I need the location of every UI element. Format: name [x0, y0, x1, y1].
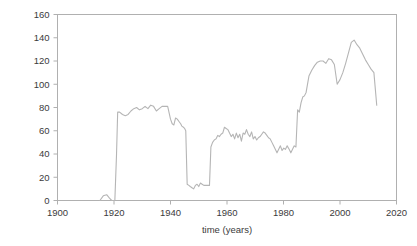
- y-tick-label: 20: [39, 172, 50, 183]
- y-tick-label: 120: [34, 55, 50, 66]
- y-tick-label: 60: [39, 125, 50, 136]
- y-axis-ticks: 020406080100120140160: [34, 9, 58, 206]
- x-tick-label: 1920: [103, 207, 124, 218]
- x-tick-label: 2000: [329, 207, 350, 218]
- y-tick-label: 160: [34, 9, 50, 20]
- y-tick-label: 0: [44, 195, 49, 206]
- x-tick-label: 1940: [160, 207, 181, 218]
- axis-frame: [58, 15, 397, 201]
- x-tick-label: 1980: [273, 207, 294, 218]
- x-axis-title: time (years): [57, 224, 397, 235]
- y-tick-label: 80: [39, 102, 50, 113]
- x-tick-label: 1960: [216, 207, 237, 218]
- y-tick-label: 40: [39, 148, 50, 159]
- x-tick-label: 2020: [386, 207, 407, 218]
- y-tick-label: 140: [34, 32, 50, 43]
- plot-frame: [58, 15, 397, 201]
- chart-figure: rain gauge stations (number) 02040608010…: [0, 0, 417, 246]
- plot-svg: 020406080100120140160 190019201940196019…: [0, 0, 417, 246]
- data-series-group: [100, 40, 377, 200]
- line-series-rain-gauge-stations: [100, 40, 377, 200]
- y-tick-label: 100: [34, 79, 50, 90]
- x-axis-ticks: 1900192019401960198020002020: [47, 201, 407, 218]
- x-axis-title-text: time (years): [202, 224, 252, 235]
- x-tick-label: 1900: [47, 207, 68, 218]
